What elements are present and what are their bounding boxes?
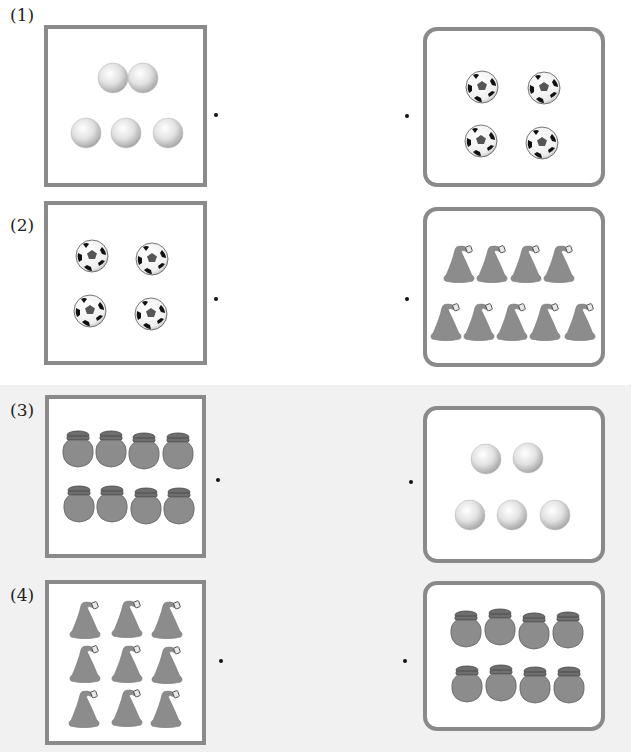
- soccer-ball-icon: [464, 124, 498, 158]
- pearl-icon: [152, 117, 184, 149]
- jar-icon: [161, 486, 197, 526]
- question-label-4: (4): [10, 585, 34, 605]
- right-box-4-jars: [423, 581, 605, 731]
- hat-icon: [148, 642, 186, 684]
- right-connector-dot-1[interactable]: [405, 114, 409, 118]
- jar-icon: [551, 665, 587, 705]
- pearl-icon: [539, 499, 571, 531]
- pearl-icon: [496, 499, 528, 531]
- question-label-3: (3): [10, 400, 34, 420]
- jar-icon: [516, 611, 552, 651]
- pearl-icon: [470, 443, 502, 475]
- pearl-icon: [110, 117, 142, 149]
- soccer-ball-icon: [75, 239, 109, 273]
- pearl-icon: [454, 499, 486, 531]
- right-box-3-pearls: [423, 406, 605, 563]
- jar-icon: [94, 484, 130, 524]
- soccer-ball-icon: [527, 71, 561, 105]
- hat-icon: [526, 299, 564, 341]
- question-label-1: (1): [10, 5, 34, 25]
- right-box-2-hats: [423, 207, 605, 367]
- right-connector-dot-4[interactable]: [403, 659, 407, 663]
- hat-icon: [540, 241, 578, 283]
- jar-icon: [93, 429, 129, 469]
- right-connector-dot-2[interactable]: [405, 297, 409, 301]
- jar-icon: [126, 431, 162, 471]
- hat-icon: [148, 597, 186, 639]
- left-connector-dot-2[interactable]: [214, 297, 218, 301]
- pearl-icon: [512, 442, 544, 474]
- hat-icon: [108, 596, 146, 638]
- hat-icon: [473, 241, 511, 283]
- jar-icon: [449, 664, 485, 704]
- jar-icon: [160, 431, 196, 471]
- soccer-ball-icon: [525, 126, 559, 160]
- pearl-icon: [97, 62, 129, 94]
- soccer-ball-icon: [73, 294, 107, 328]
- hat-icon: [66, 641, 104, 683]
- hat-icon: [561, 299, 599, 341]
- jar-icon: [60, 429, 96, 469]
- soccer-ball-icon: [135, 242, 169, 276]
- soccer-ball-icon: [134, 297, 168, 331]
- right-box-1-soccer-balls: [423, 27, 605, 187]
- jar-icon: [128, 486, 164, 526]
- pearl-icon: [127, 62, 159, 94]
- jar-icon: [483, 663, 519, 703]
- hat-icon: [147, 686, 185, 728]
- left-connector-dot-4[interactable]: [219, 659, 223, 663]
- jar-icon: [482, 607, 518, 647]
- left-connector-dot-3[interactable]: [216, 478, 220, 482]
- jar-icon: [448, 609, 484, 649]
- hat-icon: [108, 685, 146, 727]
- hat-icon: [108, 641, 146, 683]
- question-label-2: (2): [10, 215, 34, 235]
- left-box-3-jars: [45, 395, 206, 558]
- hat-icon: [65, 686, 103, 728]
- left-connector-dot-1[interactable]: [214, 113, 218, 117]
- pearl-icon: [70, 117, 102, 149]
- right-connector-dot-3[interactable]: [409, 480, 413, 484]
- left-box-1-pearls: [44, 25, 207, 187]
- hat-icon: [66, 597, 104, 639]
- jar-icon: [61, 484, 97, 524]
- jar-icon: [517, 665, 553, 705]
- left-box-2-soccer-balls: [44, 201, 207, 365]
- jar-icon: [550, 610, 586, 650]
- soccer-ball-icon: [465, 70, 499, 104]
